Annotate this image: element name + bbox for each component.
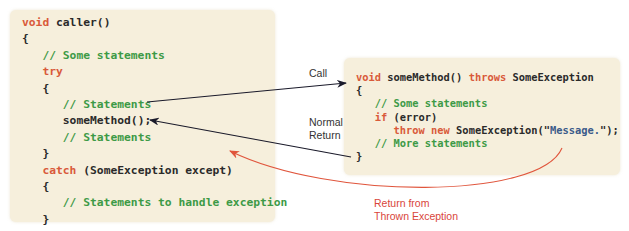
flow-arrows: [0, 0, 629, 231]
normal-return-arrow: [150, 120, 351, 157]
call-arrow: [147, 83, 346, 102]
thrown-exception-arrow: [230, 148, 562, 187]
